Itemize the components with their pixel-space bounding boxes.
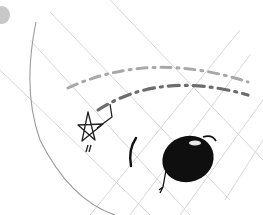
sketch-canvas	[0, 0, 263, 215]
grid-lines	[0, 0, 263, 215]
black-oval	[156, 128, 221, 193]
dashed-arc-lower	[98, 85, 248, 110]
dashed-arc-upper	[68, 67, 248, 88]
sketch-drawing	[0, 0, 263, 215]
